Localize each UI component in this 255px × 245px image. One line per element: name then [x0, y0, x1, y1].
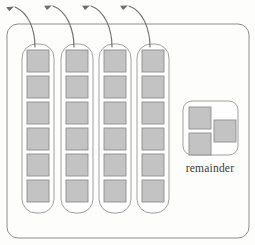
unit-square[interactable] — [104, 102, 126, 124]
unit-square[interactable] — [27, 154, 49, 176]
unit-square[interactable] — [104, 50, 126, 72]
unit-square[interactable] — [27, 50, 49, 72]
unit-square[interactable] — [27, 76, 49, 98]
unit-square[interactable] — [66, 50, 88, 72]
remainder-square-1[interactable] — [189, 107, 211, 129]
arrow-to-column-4-head — [120, 3, 129, 10]
unit-square[interactable] — [27, 180, 49, 202]
unit-square[interactable] — [66, 154, 88, 176]
unit-square[interactable] — [104, 76, 126, 98]
arrow-to-column-2-head — [44, 3, 53, 10]
unit-square[interactable] — [142, 128, 164, 150]
unit-square[interactable] — [27, 102, 49, 124]
remainder-label: remainder — [186, 162, 234, 174]
unit-square[interactable] — [66, 128, 88, 150]
bin-packing-diagram: remainder — [0, 0, 255, 245]
arrow-to-column-1-head — [6, 4, 15, 12]
unit-square[interactable] — [104, 128, 126, 150]
unit-square[interactable] — [104, 154, 126, 176]
unit-square[interactable] — [66, 102, 88, 124]
remainder-square-3[interactable] — [214, 120, 236, 142]
unit-square[interactable] — [142, 50, 164, 72]
unit-square[interactable] — [66, 76, 88, 98]
unit-square[interactable] — [27, 128, 49, 150]
unit-square[interactable] — [66, 180, 88, 202]
unit-square[interactable] — [142, 154, 164, 176]
remainder-square-2[interactable] — [189, 133, 211, 155]
unit-square[interactable] — [142, 76, 164, 98]
arrow-to-column-3-head — [82, 3, 91, 10]
unit-square[interactable] — [104, 180, 126, 202]
unit-square[interactable] — [142, 102, 164, 124]
diagram-canvas: remainder — [0, 0, 255, 245]
unit-square[interactable] — [142, 180, 164, 202]
